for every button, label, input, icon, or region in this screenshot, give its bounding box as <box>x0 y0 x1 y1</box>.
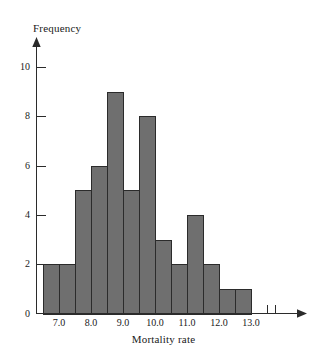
bars-group <box>44 93 252 315</box>
histogram-bar <box>92 167 108 315</box>
x-tick-label: 11.0 <box>170 318 204 328</box>
histogram-bar <box>156 241 172 315</box>
y-tick-label: 4 <box>8 210 30 220</box>
histogram-bar <box>108 93 124 315</box>
y-tick-label: 0 <box>8 309 30 319</box>
plot-area <box>0 0 327 358</box>
y-axis-arrow-icon <box>32 37 40 47</box>
histogram-bar <box>76 191 92 315</box>
histogram-bar <box>204 265 220 315</box>
y-tick-label: 8 <box>8 111 30 121</box>
histogram-bar <box>188 216 204 315</box>
x-tick-label: 7.0 <box>42 318 76 328</box>
y-tick-label: 2 <box>8 259 30 269</box>
histogram-bar <box>236 290 252 315</box>
x-axis-title: Mortality rate <box>0 333 327 345</box>
histogram-bar <box>140 117 156 315</box>
x-axis-arrow-icon <box>297 309 307 317</box>
histogram-bar <box>220 290 236 315</box>
y-tick-label: 10 <box>8 62 30 72</box>
x-tick-label: 12.0 <box>202 318 236 328</box>
histogram-chart: Frequency 0246810 7.08.09.010.011.012.01… <box>0 0 327 358</box>
histogram-bar <box>172 265 188 315</box>
histogram-bar <box>124 191 140 315</box>
x-tick-label: 8.0 <box>74 318 108 328</box>
x-tick-label: 13.0 <box>234 318 268 328</box>
histogram-bar <box>44 265 60 315</box>
histogram-bar <box>60 265 76 315</box>
y-tick-label: 6 <box>8 161 30 171</box>
x-tick-label: 10.0 <box>138 318 172 328</box>
x-tick-label: 9.0 <box>106 318 140 328</box>
